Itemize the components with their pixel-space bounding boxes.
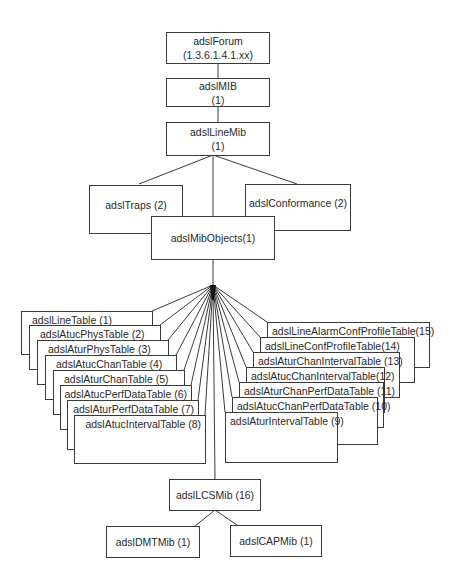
node-oid: (1.3.6.1.4.1.xx) <box>183 48 253 62</box>
node-adsl-forum: adslForum (1.3.6.1.4.1.xx) <box>166 32 270 64</box>
table-label: adslAtucPerfDataTable (6) <box>64 388 187 400</box>
table-label: adslAturChanTable (5) <box>64 373 168 385</box>
table-label: adslAtucPhysTable (2) <box>40 328 144 340</box>
node-label: adslDMTMib (1) <box>116 535 191 549</box>
node-label: adslConformance (2) <box>249 196 347 210</box>
node-label: adslMibObjects(1) <box>171 231 256 245</box>
table-label: adslAtucChanIntervalTable(12) <box>251 370 395 382</box>
node-index: (1) <box>212 139 225 153</box>
table-label: adslLineConfProfileTable(14) <box>265 340 400 352</box>
node-label: adslCAPMib (1) <box>239 534 313 548</box>
node-label: adslForum <box>193 34 243 48</box>
node-adsl-cap-mib: adslCAPMib (1) <box>230 525 322 557</box>
table-label: adslAturPerfDataTable (7) <box>73 403 194 415</box>
table-adsl-atur-interval-table: adslAturIntervalTable (9) <box>225 412 338 463</box>
node-label: adslLineMib <box>190 125 246 139</box>
node-label: adslLCSMib (16) <box>176 488 254 502</box>
node-label: adslMIB <box>199 79 237 93</box>
mib-tree-diagram: adslForum (1.3.6.1.4.1.xx) adslMIB (1) a… <box>0 0 453 578</box>
table-label: adslAtucChanTable (4) <box>56 358 162 370</box>
table-label: adslAturPhysTable (3) <box>48 343 151 355</box>
table-label: adslAtucChanPerfDataTable (10) <box>237 400 391 412</box>
table-label: adslAturChanPerfDataTable (11) <box>244 385 395 397</box>
table-adsl-atuc-interval-table: adslAtucIntervalTable (8) <box>74 415 206 464</box>
node-label: adslTraps (2) <box>105 198 166 212</box>
node-adsl-dmt-mib: adslDMTMib (1) <box>106 526 200 558</box>
node-adsl-lcs-mib: adslLCSMib (16) <box>169 479 261 511</box>
table-label: adslAtucIntervalTable (8) <box>85 418 201 430</box>
table-label: adslAturIntervalTable (9) <box>230 415 344 427</box>
table-label: adslAturChanIntervalTable (13) <box>258 355 403 367</box>
node-index: (1) <box>212 93 225 107</box>
node-adsl-mib-objects: adslMibObjects(1) <box>151 216 275 260</box>
node-adsl-line-mib: adslLineMib (1) <box>166 122 270 156</box>
node-adsl-mib: adslMIB (1) <box>166 78 270 107</box>
table-label: adslLineAlarmConfProfileTable(15) <box>272 325 434 337</box>
